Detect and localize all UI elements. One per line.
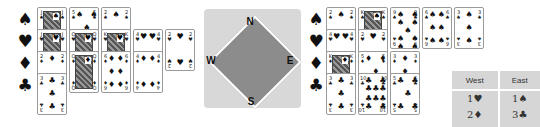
card-index: 2 ♦	[60, 54, 65, 64]
card-6-of-spades: 6 ♠6 ♠6 ♠6 ♠♠♠♠♠♠♠	[422, 7, 452, 49]
compass-south: S	[245, 96, 257, 107]
diamond-icon: ♦	[140, 81, 147, 89]
card-2-of-hearts: 2 ♥2 ♥2 ♥2 ♥♥♥	[165, 29, 195, 71]
card-index: 4 ♦	[156, 54, 161, 64]
diamond-icon: ♦	[401, 55, 408, 63]
card-index: 3 ♣	[349, 102, 354, 112]
club-icon: ♣	[48, 77, 55, 85]
spade-icon: ♠	[429, 11, 436, 19]
bid-cell: 2♦	[452, 106, 499, 122]
club-icon: ♣	[404, 90, 411, 98]
compass-west: W	[205, 55, 217, 66]
card-index: 2 ♥	[188, 58, 193, 68]
card-index: 2 ♠	[124, 10, 129, 20]
bid-cell: 1♠	[499, 90, 540, 106]
card-index: 6 ♦	[124, 54, 129, 64]
header-east: East	[499, 71, 540, 90]
card-index: 3 ♦	[413, 54, 418, 64]
spade-icon: ♠	[411, 43, 418, 49]
spade-icon: ♠	[307, 11, 325, 28]
card-5-of-clubs: 5 ♣5 ♣5 ♣5 ♣♣♣♣♣♣	[390, 73, 420, 115]
spade-icon: ♠	[397, 43, 404, 49]
heart-icon: ♥	[149, 33, 156, 41]
card-index: 6 ♦	[124, 80, 129, 90]
bridge-diagram: ♠ ♥ ♦ ♣ J ♠J ♠J ♠J ♠♠5 ♠5 ♠5 ♠5 ♠♠♠♠♠♠2 …	[0, 0, 540, 127]
diamond-icon: ♦	[48, 55, 55, 63]
card-index: 4 ♥	[156, 32, 161, 42]
diamond-icon: ♦	[117, 55, 124, 63]
heart-icon: ♥	[307, 33, 325, 50]
bid-row: 1♥ 1♠	[452, 90, 540, 106]
club-icon: ♣	[337, 103, 344, 111]
spade-icon: ♠	[16, 11, 34, 28]
spade-icon: ♠	[465, 37, 472, 45]
club-icon: ♣	[48, 90, 55, 98]
bid-cell: 3♣	[499, 106, 540, 122]
diamond-icon: ♦	[117, 68, 124, 76]
club-icon: ♣	[337, 90, 344, 98]
bidding-header-row: West East	[452, 71, 540, 90]
card-9-of-spades: 9 ♠9 ♠9 ♠9 ♠♠♠♠♠♠♠♠♠♠	[390, 7, 420, 49]
heart-icon: ♥	[140, 33, 147, 41]
club-icon: ♣	[365, 85, 372, 93]
club-icon: ♣	[372, 85, 379, 93]
card-index: 3 ♣	[60, 76, 65, 86]
diamond-icon: ♦	[85, 57, 91, 64]
heart-icon: ♥	[342, 33, 349, 41]
spade-icon: ♠	[438, 24, 445, 32]
header-west: West	[452, 71, 499, 90]
bidding-table: West East 1♥ 1♠ 2♦ 3♣ 3♠ 4♠	[452, 71, 540, 127]
spade-icon: ♠	[429, 24, 436, 32]
club-icon: ♣	[379, 85, 386, 93]
bid-row: 3♠ 4♠	[452, 122, 540, 127]
card-index: 2 ♠	[349, 10, 354, 20]
card-10-of-clubs: 10 ♣10 ♣10 ♣10 ♣♣♣♣♣♣♣♣♣♣♣	[358, 73, 388, 115]
bid-cell: 1♥	[452, 90, 499, 106]
club-icon: ♣	[307, 77, 325, 94]
club-icon: ♣	[397, 77, 404, 85]
spade-icon: ♠	[429, 37, 436, 45]
club-icon: ♣	[16, 77, 34, 94]
club-icon: ♣	[411, 103, 418, 111]
bid-row: 2♦ 3♣	[452, 106, 540, 122]
diamond-icon: ♦	[149, 81, 156, 89]
card-index: 3 ♣	[60, 102, 65, 112]
club-icon: ♣	[372, 95, 379, 103]
heart-icon: ♥	[176, 33, 183, 41]
heart-icon: ♥	[333, 33, 340, 41]
card-3-of-clubs: 3 ♣3 ♣3 ♣3 ♣♣♣♣	[326, 73, 356, 115]
face-card-image: ♦	[75, 55, 93, 89]
bid-cell: 3♠	[452, 122, 499, 127]
compass-east: E	[284, 55, 296, 66]
diamond-icon: ♦	[149, 55, 156, 63]
bid-cell: 4♠	[499, 122, 540, 127]
diamond-icon: ♦	[379, 55, 386, 63]
club-icon: ♣	[337, 77, 344, 85]
card-index: 4 ♦	[156, 80, 161, 90]
diamond-icon: ♦	[342, 57, 348, 64]
spade-icon: ♠	[337, 11, 344, 19]
spade-icon: ♠	[438, 37, 445, 45]
diamond-icon: ♦	[117, 81, 124, 89]
card-index: 2 ♥	[381, 32, 386, 42]
spade-icon: ♠	[397, 19, 404, 27]
card-4-of-diamonds: 4 ♦4 ♦4 ♦4 ♦♦♦♦♦	[133, 51, 163, 93]
card-index: 3 ♠	[477, 10, 482, 20]
club-icon: ♣	[365, 103, 372, 111]
spade-icon: ♠	[465, 11, 472, 19]
card-3-of-spades: 3 ♠3 ♠3 ♠3 ♠♠♠♠	[454, 7, 484, 49]
compass-north: N	[244, 16, 256, 27]
diamond-icon: ♦	[108, 55, 115, 63]
spade-icon: ♠	[404, 27, 411, 35]
card-index: 3 ♠	[477, 36, 482, 46]
card-index: 3 ♣	[349, 76, 354, 86]
diamond-icon: ♦	[108, 68, 115, 76]
club-icon: ♣	[397, 103, 404, 111]
heart-icon: ♥	[117, 35, 123, 42]
card-index: 6 ♠	[445, 36, 450, 46]
card-6-of-diamonds: 6 ♦6 ♦6 ♦6 ♦♦♦♦♦♦♦	[101, 51, 131, 93]
diamond-icon: ♦	[108, 81, 115, 89]
spade-icon: ♠	[411, 19, 418, 27]
club-icon: ♣	[379, 103, 386, 111]
card-index: 2 ♥	[188, 32, 193, 42]
